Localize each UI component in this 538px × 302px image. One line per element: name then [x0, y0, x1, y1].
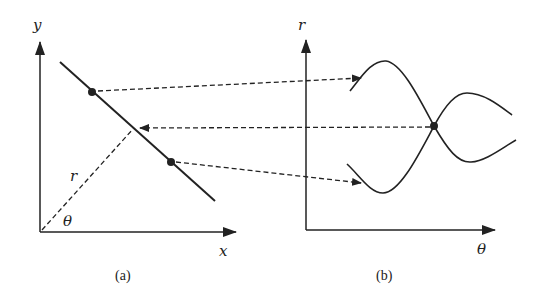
sinusoid-upper	[350, 61, 516, 162]
theta-axis-label: θ	[477, 240, 486, 258]
r-label: r	[70, 167, 78, 185]
sinusoid-lower	[347, 93, 512, 193]
point-1	[88, 88, 96, 96]
intersection-point	[430, 122, 438, 130]
panel-a: y x r θ (a)	[32, 16, 236, 284]
image-line	[60, 62, 215, 201]
arrow-intersection-to-line	[140, 127, 430, 128]
panel-b: r θ (b)	[298, 16, 516, 284]
normal-distance-line	[42, 129, 133, 230]
arrow-point1-to-curve	[98, 78, 361, 91]
arrow-point2-to-curve	[176, 162, 361, 183]
theta-label: θ	[63, 212, 72, 230]
y-axis-label: y	[32, 16, 42, 34]
caption-b: (b)	[376, 268, 393, 284]
r-axis-label: r	[298, 16, 306, 34]
hough-transform-diagram: y x r θ (a) r θ (b)	[0, 0, 538, 302]
caption-a: (a)	[115, 268, 131, 284]
point-2	[167, 158, 175, 166]
mapping-arrows	[98, 78, 430, 183]
x-axis-label: x	[219, 242, 228, 260]
